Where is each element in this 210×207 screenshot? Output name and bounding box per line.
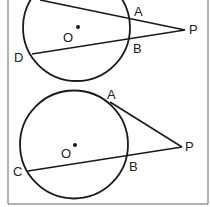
label-a-bottom: A [107, 87, 116, 102]
geometry-diagram: O A B D P O A B C P [0, 0, 210, 207]
secant-pd [32, 30, 185, 54]
tangent-pa [110, 102, 182, 147]
label-a-top: A [134, 4, 143, 19]
label-b-top: B [133, 41, 142, 56]
center-dot-bottom [73, 143, 77, 147]
label-p-top: P [189, 22, 198, 37]
secant-pc [28, 147, 182, 171]
figure-top: O A B D P [14, 0, 198, 81]
label-c-bottom: C [13, 164, 22, 179]
figure-bottom: O A B C P [13, 87, 194, 199]
label-d-top: D [14, 50, 23, 65]
secant-pa [40, 0, 185, 30]
label-o-top: O [63, 30, 73, 45]
center-dot-top [76, 25, 80, 29]
label-p-bottom: P [185, 139, 194, 154]
label-o-bottom: O [61, 146, 71, 161]
label-b-bottom: B [129, 159, 138, 174]
